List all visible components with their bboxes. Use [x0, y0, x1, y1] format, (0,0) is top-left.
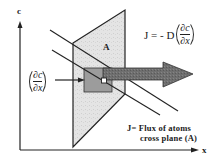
- plane-label: A: [103, 42, 110, 52]
- y-axis-label: c: [17, 6, 21, 16]
- gradient-denominator: ∂x: [33, 83, 42, 93]
- gradient-numerator: ∂c: [33, 70, 42, 80]
- caption-line-1: J= Flux of atoms: [127, 123, 191, 133]
- equation-denominator: ∂x: [180, 36, 189, 46]
- x-axis: [20, 148, 199, 153]
- equation-numerator: ∂c: [180, 23, 189, 33]
- ficks-law-equation: J = - D ∂c ∂x: [144, 21, 194, 48]
- tangent-point-marker: [102, 78, 107, 83]
- x-axis-arrowhead-icon: [191, 148, 199, 153]
- y-axis-arrowhead-icon: [18, 21, 23, 28]
- equation-lhs: J = - D: [144, 29, 174, 41]
- x-axis-label: x: [202, 145, 207, 155]
- caption-line-2: cross plane (A): [140, 133, 197, 143]
- gradient-term: ∂c ∂x: [29, 64, 46, 95]
- y-axis: [18, 21, 23, 150]
